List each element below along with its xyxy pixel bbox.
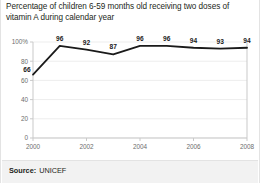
data-point-label: 96 (136, 35, 144, 42)
plot-area: 020406080100% 20002002200420062008 66969… (5, 28, 257, 156)
data-point-label: 66 (23, 66, 31, 73)
data-point-label: 92 (83, 39, 91, 46)
line-chart-svg: 020406080100% 20002002200420062008 66969… (5, 28, 257, 156)
source-label: Source: (9, 166, 36, 175)
x-tick-label: 2002 (79, 143, 94, 150)
y-tick-label: 80 (21, 58, 29, 65)
y-tick-label: 100% (12, 38, 29, 45)
data-point-label: 96 (56, 35, 64, 42)
x-axis: 20002002200420062008 (26, 138, 255, 150)
data-point-label: 94 (190, 37, 198, 44)
x-tick-labels: 20002002200420062008 (26, 143, 255, 150)
y-tick-label: 20 (21, 115, 29, 122)
source-band: Source:UNICEF (2, 160, 258, 183)
x-tick-label: 2008 (240, 143, 255, 150)
y-tick-labels: 020406080100% (12, 38, 29, 141)
y-tick-label: 0 (24, 134, 28, 141)
source-value: UNICEF (39, 166, 66, 175)
y-tick-label: 60 (21, 77, 29, 84)
data-point-label: 93 (217, 38, 225, 45)
source-note: Source:UNICEF (9, 166, 66, 175)
data-series-line (33, 46, 247, 75)
x-tick-label: 2006 (186, 143, 201, 150)
chart-figure: Percentage of children 6-59 months old r… (0, 0, 260, 183)
y-axis: 020406080100% (12, 38, 33, 141)
x-tick-label: 2004 (133, 143, 148, 150)
data-point-labels: 669692879696949394 (23, 35, 251, 73)
x-tick-label: 2000 (26, 143, 41, 150)
data-point-label: 87 (110, 43, 118, 50)
chart-title: Percentage of children 6-59 months old r… (6, 1, 254, 23)
data-point-label: 96 (163, 35, 171, 42)
grid-lines (33, 42, 247, 138)
data-point-label: 94 (243, 37, 251, 44)
y-tick-label: 40 (21, 96, 29, 103)
